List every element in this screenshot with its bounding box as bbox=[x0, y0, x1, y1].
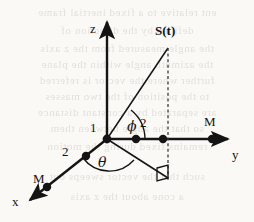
angle-theta-arc bbox=[83, 158, 134, 171]
x-axis-label: x bbox=[12, 195, 19, 208]
origin-point bbox=[103, 135, 112, 144]
mass-y-label: M bbox=[204, 115, 216, 128]
x-axis-point-unit bbox=[82, 152, 90, 160]
unit-z-label: 1 bbox=[90, 121, 97, 134]
z-axis-label: z bbox=[90, 22, 96, 35]
mass-x-label: M bbox=[33, 172, 45, 185]
y-axis-label: y bbox=[232, 148, 239, 161]
spherical-coordinate-diagram: ent relative to a fixed inertial frame d… bbox=[0, 0, 254, 222]
unit-y-label: 2 bbox=[140, 116, 147, 129]
diagram-vector-graphics bbox=[0, 0, 254, 222]
angle-phi-label: ϕ bbox=[127, 119, 137, 133]
y-axis-point-mass bbox=[208, 135, 216, 143]
unit-x-label: 2 bbox=[62, 145, 69, 158]
vector-s-line bbox=[107, 48, 168, 139]
vector-s-label: S(t) bbox=[155, 24, 175, 37]
angle-theta-label: θ bbox=[98, 155, 106, 169]
projection-line bbox=[107, 139, 168, 178]
right-angle-marker bbox=[157, 165, 168, 181]
x-axis-line bbox=[30, 139, 107, 200]
y-axis-point-projection bbox=[159, 135, 167, 143]
y-axis-point-unit bbox=[132, 135, 140, 143]
